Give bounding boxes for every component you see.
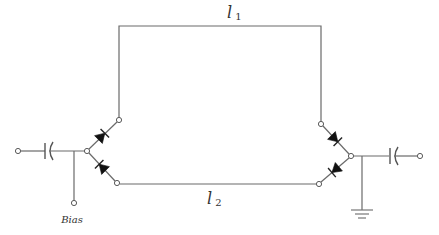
right-upper-branch xyxy=(318,121,349,154)
diode-right-lower-icon xyxy=(328,162,343,177)
ground-icon xyxy=(351,210,373,218)
input-terminal xyxy=(15,148,20,153)
output-terminal xyxy=(417,153,422,158)
line-l1: l1 xyxy=(119,3,321,121)
output-section xyxy=(348,147,422,218)
left-lower-node xyxy=(114,180,119,185)
line-l2: l2 xyxy=(120,184,316,208)
left-junction-node xyxy=(84,148,89,153)
bias-terminal xyxy=(71,200,76,205)
left-lower-branch xyxy=(89,153,120,186)
phase-shifter-circuit: Bias l1 l2 xyxy=(0,0,439,235)
right-lower-node xyxy=(316,181,321,186)
right-upper-node xyxy=(318,121,323,126)
bias-label: Bias xyxy=(60,214,83,225)
line-l1-path xyxy=(119,26,321,121)
line-l1-label: l1 xyxy=(227,3,242,22)
left-upper-branch xyxy=(89,117,122,149)
input-section: Bias xyxy=(15,142,89,225)
right-lower-branch xyxy=(316,158,349,187)
line-l2-label: l2 xyxy=(207,189,222,208)
left-upper-node xyxy=(116,117,121,122)
right-junction-node xyxy=(348,153,353,158)
